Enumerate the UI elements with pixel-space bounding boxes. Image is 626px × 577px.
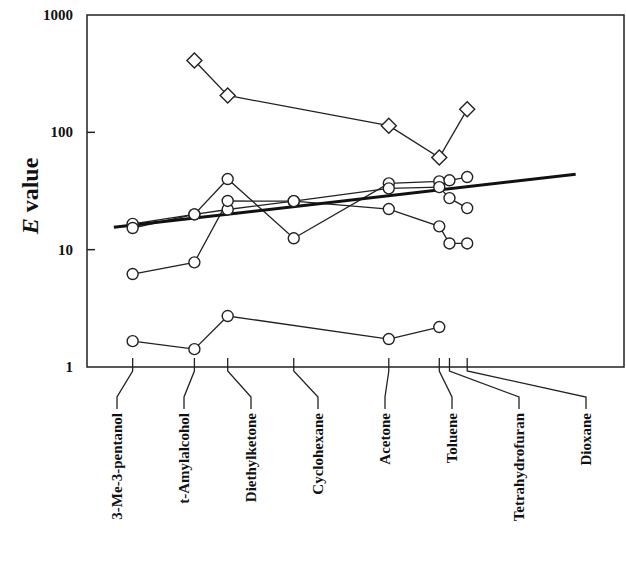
circle-marker <box>434 221 445 232</box>
y-tick-label: 1000 <box>43 7 73 23</box>
circle-marker <box>222 174 233 185</box>
diamond-marker <box>432 150 447 165</box>
x-category-label: t-Amylalcohol <box>176 413 192 504</box>
circle-marker <box>189 209 200 220</box>
circle-marker <box>444 193 455 204</box>
x-leader-line <box>449 367 519 409</box>
circle-marker <box>462 238 473 249</box>
x-leader-line <box>294 367 318 409</box>
circle-marker <box>189 257 200 268</box>
x-category-label: Cyclohexane <box>310 413 326 495</box>
x-axis: 3-Me-3-pentanolt-AmylalcoholDiethylketon… <box>109 358 594 521</box>
circle-marker <box>222 195 233 206</box>
x-category-label: 3-Me-3-pentanol <box>109 413 125 520</box>
diamond-marker <box>381 118 396 133</box>
circle-marker <box>444 238 455 249</box>
circle-marker <box>383 204 394 215</box>
circle-marker <box>383 183 394 194</box>
y-axis-label-rest: value <box>17 157 43 218</box>
series-markers <box>127 53 475 355</box>
x-leader-line <box>467 367 586 409</box>
diamond-marker <box>460 102 475 117</box>
circle-marker <box>288 233 299 244</box>
x-category-label: Acetone <box>377 413 393 465</box>
circle-marker <box>434 182 445 193</box>
diamond-series-line <box>194 60 467 157</box>
x-leader-line <box>385 367 389 409</box>
y-tick-label: 100 <box>51 124 74 140</box>
plot-frame <box>87 15 624 367</box>
y-tick-label: 10 <box>58 242 73 258</box>
circle-marker <box>189 344 200 355</box>
circle-marker <box>444 175 455 186</box>
circle-marker <box>222 311 233 322</box>
circle-marker <box>288 196 299 207</box>
x-leader-line <box>439 367 452 409</box>
x-category-label: Toluene <box>444 413 460 464</box>
circle-series-3-line <box>133 201 468 274</box>
circle-marker <box>127 222 138 233</box>
circle-series-1-line <box>133 177 468 238</box>
circle-marker <box>462 172 473 183</box>
circle-marker <box>462 203 473 214</box>
y-tick-label: 1 <box>66 359 74 375</box>
x-category-label: Dioxane <box>578 413 594 466</box>
circle-marker <box>127 336 138 347</box>
circle-series-4-line <box>133 316 440 349</box>
circle-marker <box>434 322 445 333</box>
trendline-group <box>114 174 576 227</box>
x-leader-line <box>117 367 133 409</box>
y-axis-label-italic: E <box>17 218 43 235</box>
chart: 1101001000 E value 3-Me-3-pentanolt-Amyl… <box>0 0 626 577</box>
x-leader-line <box>184 367 194 409</box>
x-category-label: Tetrahydrofuran <box>511 412 527 521</box>
regression-line <box>114 174 576 227</box>
x-category-label: Diethylketone <box>243 413 259 503</box>
circle-marker <box>127 269 138 280</box>
x-leader-line <box>228 367 251 409</box>
y-axis-label: E value <box>17 157 43 235</box>
circle-marker <box>383 334 394 345</box>
